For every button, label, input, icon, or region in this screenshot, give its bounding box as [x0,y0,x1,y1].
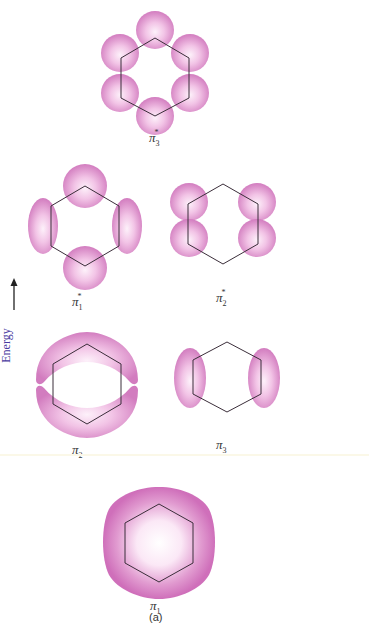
orbital-pi2-star [165,180,285,280]
orbital-pi2-star-drawing [165,180,285,280]
label-pi3-star: π3* [149,130,164,148]
orbital-pi3-drawing [170,340,285,430]
energy-axis: Energy [2,278,26,378]
orbital-pi1-star [25,160,145,290]
figure-caption: (a) [149,611,162,623]
orbital-pi3-star [90,8,220,138]
orbital-pi1-drawing [97,485,222,600]
label-pi2: π2 [72,442,83,460]
orbital-pi1-star-drawing [25,160,145,290]
orbital-pi3-star-drawing [90,8,220,138]
label-pi2-star: π2* [216,290,231,308]
orbital-pi3 [170,340,285,430]
orbital-pi2-drawing [30,330,145,440]
energy-axis-label: Energy [0,316,14,376]
label-pi1-star: π1* [72,294,87,312]
divider-band [0,454,369,456]
orbital-pi2 [30,330,145,440]
label-pi3: π3 [216,437,227,455]
orbital-pi1 [97,485,222,600]
